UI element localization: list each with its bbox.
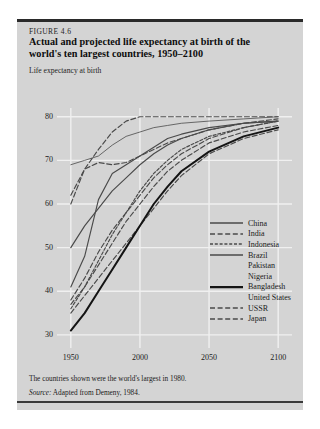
legend-label: China [248,219,267,228]
legend-swatch-icon [210,282,243,292]
legend-item-japan[interactable]: Japan [210,313,310,324]
y-tick-label: 50 [31,243,53,252]
bottom-rule [17,401,303,403]
legend-item-nigeria[interactable]: Nigeria [210,271,310,282]
x-tick-label: 1950 [51,353,91,362]
legend-label: Pakistan [248,261,275,270]
y-tick-label: 30 [31,330,53,339]
legend-label: Nigeria [248,272,272,281]
legend-item-india[interactable]: India [210,229,310,240]
legend-swatch-icon [210,271,243,281]
x-tick-label: 2050 [189,353,229,362]
series-line-ussr [71,119,278,195]
legend-label: United States [248,293,291,302]
figure-source: Source: Adapted from Demeny, 1984. [29,388,295,397]
legend-label: USSR [248,304,268,313]
x-tick-label: 2000 [120,353,160,362]
y-axis-caption: Life expectancy at birth [29,66,101,75]
legend-item-pakistan[interactable]: Pakistan [210,260,310,271]
legend-swatch-icon [210,218,243,228]
legend-swatch-icon [210,229,243,239]
figure-title-line2: world's ten largest countries, 1950–2100 [29,48,203,59]
legend-item-ussr[interactable]: USSR [210,303,310,314]
figure-footnote: The countries shown were the world's lar… [29,374,295,383]
y-tick-label: 60 [31,199,53,208]
legend-label: Brazil [248,251,268,260]
legend-item-united-states[interactable]: United States [210,292,310,303]
legend-swatch-icon [210,250,243,260]
y-tick-label: 80 [31,112,53,121]
legend-swatch-icon [210,292,243,302]
figure-panel: FIGURE 4.6 Actual and projected life exp… [17,19,303,410]
legend-swatch-icon [210,314,243,324]
y-tick-label: 70 [31,155,53,164]
legend-label: Indonesia [248,240,279,249]
legend-label: Bangladesh [248,282,285,291]
legend-swatch-icon [210,239,243,249]
legend-label: Japan [248,314,266,323]
figure-title: Actual and projected life expectancy at … [29,36,293,61]
x-tick-label: 2100 [258,353,298,362]
legend-swatch-icon [210,303,243,313]
y-tick-label: 40 [31,286,53,295]
legend-item-china[interactable]: China [210,218,310,229]
source-text: Adapted from Demeny, 1984. [51,388,139,397]
legend-item-brazil[interactable]: Brazil [210,250,310,261]
source-label: Source: [29,388,51,397]
figure-title-line1: Actual and projected life expectancy at … [29,36,250,47]
legend-label: India [248,229,264,238]
legend-item-indonesia[interactable]: Indonesia [210,239,310,250]
legend-swatch-icon [210,261,243,271]
chart-legend: ChinaIndiaIndonesiaBrazilPakistanNigeria… [210,218,310,324]
figure-number: FIGURE 4.6 [29,27,71,36]
legend-item-bangladesh[interactable]: Bangladesh [210,282,310,293]
